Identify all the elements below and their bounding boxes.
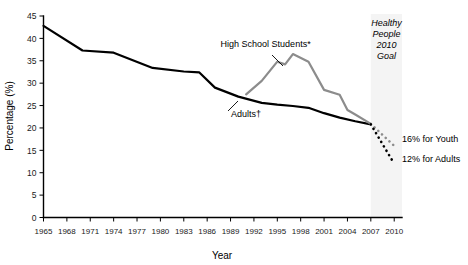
x-tick-label: 1998: [292, 227, 310, 236]
series-line-0: [44, 26, 371, 125]
y-tick-label: 15: [27, 146, 37, 156]
y-tick-label: 5: [32, 190, 37, 200]
y-tick-label: 25: [27, 101, 37, 111]
y-tick-label: 10: [27, 168, 37, 178]
x-tick-label: 1986: [198, 227, 216, 236]
x-tick-label: 1974: [105, 227, 123, 236]
goal-label-line-0: Healthy: [371, 18, 402, 28]
y-tick-label: 30: [27, 78, 37, 88]
goal-label-line-3: Goal: [377, 51, 397, 61]
x-tick-label: 2001: [315, 227, 333, 236]
series-label-adults: Adults†: [231, 109, 261, 119]
x-axis-title: Year: [212, 250, 233, 261]
series-label-high-school-students: High School Students*: [221, 39, 312, 49]
y-tick-label: 40: [27, 34, 37, 44]
x-tick-label: 2007: [362, 227, 380, 236]
annotation-16-percent-youth: 16% for Youth: [402, 134, 458, 144]
x-tick-label: 1995: [268, 227, 286, 236]
x-tick-label: 1980: [152, 227, 170, 236]
students-leader-line: [272, 55, 283, 66]
series-line-1: [246, 54, 371, 124]
data-series-layer: [44, 26, 395, 164]
x-axis: 1965196819711974197719801983198619891992…: [35, 218, 404, 236]
x-tick-label: 1992: [245, 227, 263, 236]
x-tick-label: 1989: [222, 227, 240, 236]
x-tick-label: 1971: [81, 227, 99, 236]
y-tick-label: 35: [27, 56, 37, 66]
x-tick-label: 1968: [58, 227, 76, 236]
x-tick-label: 2010: [385, 227, 403, 236]
goal-label-line-2: 2010: [375, 40, 396, 50]
y-tick-labels: 051015202530354045: [27, 11, 37, 223]
annotation-12-percent-adults: 12% for Adults: [402, 154, 461, 164]
y-tick-label: 45: [27, 11, 37, 21]
x-tick-labels: 1965196819711974197719801983198619891992…: [35, 227, 404, 236]
smoking-prevalence-line-chart: 051015202530354045 196519681971197419771…: [0, 0, 468, 265]
x-tick-label: 1977: [128, 227, 146, 236]
x-tick-label: 1965: [35, 227, 53, 236]
x-tick-label: 2004: [339, 227, 357, 236]
y-axis: 051015202530354045: [27, 11, 43, 223]
x-tick-label: 1983: [175, 227, 193, 236]
y-axis-title: Percentage (%): [4, 81, 15, 150]
goal-label-line-1: People: [372, 29, 400, 39]
y-tick-label: 0: [32, 213, 37, 223]
y-tick-label: 20: [27, 123, 37, 133]
chart-container: 051015202530354045 196519681971197419771…: [0, 0, 468, 265]
